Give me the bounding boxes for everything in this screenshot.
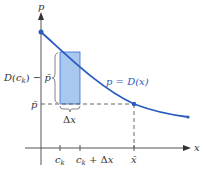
curve-label: p = D(x): [106, 76, 149, 87]
tick-label-ck: ck: [55, 154, 65, 167]
curve-start-point: [39, 30, 44, 35]
height-label: D(ck) − p̄: [3, 72, 51, 85]
y-axis-label: p: [38, 1, 45, 12]
demand-curve-diagram: p x D(ck) − p̄ p̄ Δx p = D(x) ck ck + Δx…: [0, 0, 203, 191]
tick-label-xbar: x̄: [131, 154, 137, 165]
equilibrium-point: [132, 102, 136, 106]
price-label: p̄: [31, 99, 38, 110]
diagram-canvas: p x D(ck) − p̄ p̄ Δx p = D(x) ck ck + Δx…: [0, 0, 203, 191]
x-axis-label: x: [194, 142, 200, 153]
y-axis-arrow-icon: [38, 12, 44, 20]
riemann-strip: [60, 52, 80, 104]
x-axis-arrow-icon: [183, 145, 191, 151]
height-brace-icon: [52, 53, 58, 103]
tick-label-ck-plus-dx: ck + Δx: [76, 154, 114, 167]
width-label: Δx: [63, 114, 76, 125]
width-brace-icon: [60, 106, 80, 112]
curve-end-point: [186, 115, 189, 118]
